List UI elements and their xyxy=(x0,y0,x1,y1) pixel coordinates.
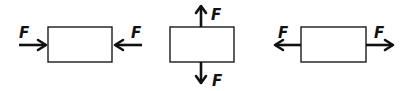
panel-compression: F F xyxy=(19,24,142,62)
force-label: F xyxy=(211,6,222,24)
block xyxy=(48,27,112,62)
block xyxy=(301,27,366,62)
force-label: F xyxy=(131,24,142,42)
force-arrow-up-icon xyxy=(196,6,206,27)
force-diagrams: F F F F F F xyxy=(0,0,413,91)
block xyxy=(170,27,234,62)
panel-tension: F F xyxy=(275,24,393,62)
force-label: F xyxy=(374,24,385,42)
force-label: F xyxy=(19,24,30,42)
panel-vertical: F F xyxy=(170,6,234,90)
force-label: F xyxy=(278,24,289,42)
force-label: F xyxy=(212,72,223,90)
force-arrow-down-icon xyxy=(196,62,206,83)
